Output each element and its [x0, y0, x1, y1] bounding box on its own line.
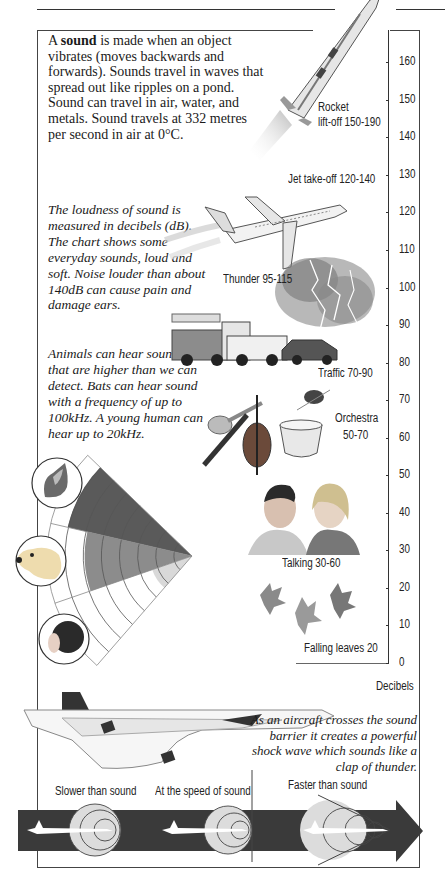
sound-barrier-diagram	[0, 0, 445, 889]
